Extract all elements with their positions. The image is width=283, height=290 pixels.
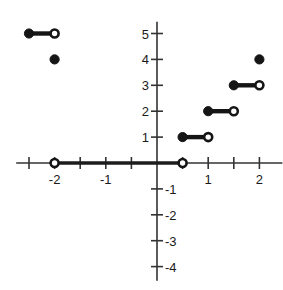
y-tick-label: 4 <box>142 52 149 67</box>
y-tick-label: 3 <box>142 78 149 93</box>
y-tick-label: -2 <box>165 208 177 223</box>
function-segments-group <box>24 29 263 167</box>
open-endpoint-circle <box>51 30 59 38</box>
y-tick-label: 1 <box>142 130 149 145</box>
y-tick-label: 2 <box>142 104 149 119</box>
y-tick-label: -3 <box>165 234 177 249</box>
y-tick-label: 5 <box>142 27 149 42</box>
x-tick-label: 2 <box>256 172 263 187</box>
closed-endpoint-dot <box>204 107 213 116</box>
isolated-closed-point <box>255 55 264 64</box>
closed-endpoint-dot <box>178 133 187 142</box>
plot-area: -2-11254321-1-2-3-4 <box>0 0 283 290</box>
open-endpoint-circle <box>179 159 187 167</box>
tick-labels-group: -2-11254321-1-2-3-4 <box>49 27 263 275</box>
open-endpoint-circle <box>51 159 59 167</box>
x-tick-label: 1 <box>205 172 212 187</box>
x-tick-label: -1 <box>100 172 112 187</box>
closed-endpoint-dot <box>24 29 33 38</box>
y-tick-label: -4 <box>165 260 177 275</box>
y-tick-label: -1 <box>165 182 177 197</box>
step-function-graph: -2-11254321-1-2-3-4 <box>0 0 283 290</box>
x-tick-label: -2 <box>49 172 61 187</box>
isolated-closed-point <box>50 55 59 64</box>
closed-endpoint-dot <box>229 81 238 90</box>
open-endpoint-circle <box>230 107 238 115</box>
open-endpoint-circle <box>255 81 263 89</box>
ticks-group <box>29 34 259 267</box>
open-endpoint-circle <box>204 133 212 141</box>
